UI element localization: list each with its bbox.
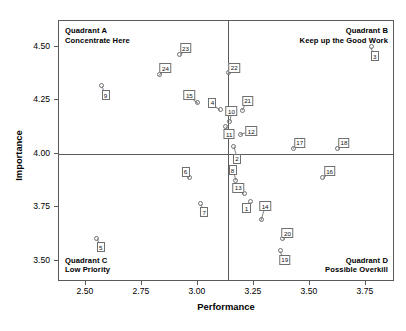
quadrant-d-title: Quadrant D	[346, 256, 388, 265]
x-tick-label: 3.00	[189, 286, 206, 296]
data-point-label[interactable]: 6	[182, 167, 190, 177]
data-point-label[interactable]: 10	[226, 106, 237, 116]
data-point-label[interactable]: 16	[324, 166, 335, 176]
data-point-marker[interactable]	[94, 236, 99, 241]
data-point-label[interactable]: 9	[102, 90, 110, 100]
quadrant-label-b: Quadrant BKeep up the Good Work	[300, 26, 388, 45]
x-tick-label: 3.50	[301, 286, 318, 296]
data-point-label[interactable]: 24	[160, 63, 171, 73]
data-point-label[interactable]: 20	[282, 228, 293, 238]
quadrant-b-title: Quadrant B	[346, 26, 388, 35]
data-point-marker[interactable]	[238, 132, 243, 137]
x-tick-mark	[141, 281, 142, 285]
data-point-label[interactable]: 2	[233, 154, 241, 164]
horizontal-reference-line	[59, 154, 393, 155]
data-point-marker[interactable]	[369, 44, 374, 49]
data-point-label[interactable]: 23	[180, 43, 191, 53]
x-tick-mark	[253, 281, 254, 285]
plot-area: Quadrant AConcentrate Here Quadrant BKee…	[59, 21, 393, 280]
data-point-label[interactable]: 17	[294, 138, 305, 148]
quadrant-a-title: Quadrant A	[65, 26, 107, 35]
data-point-label[interactable]: 1	[242, 203, 250, 213]
x-tick-label: 3.25	[245, 286, 262, 296]
data-point-marker[interactable]	[218, 107, 223, 112]
quadrant-b-subtitle: Keep up the Good Work	[300, 36, 388, 45]
y-axis-title: Importance	[13, 86, 24, 226]
x-tick-mark	[365, 281, 366, 285]
data-point-label[interactable]: 5	[97, 242, 105, 252]
data-point-label[interactable]: 8	[229, 165, 237, 175]
y-tick-label: 3.50	[33, 255, 50, 265]
x-tick-label: 2.75	[133, 286, 150, 296]
quadrant-c-subtitle: Low Priority	[65, 265, 110, 274]
quadrant-d-subtitle: Possible Overkill	[325, 265, 388, 274]
x-tick-label: 2.50	[77, 286, 94, 296]
data-point-marker[interactable]	[278, 248, 283, 253]
quadrant-label-c: Quadrant CLow Priority	[65, 256, 110, 275]
plot-frame: Quadrant AConcentrate Here Quadrant BKee…	[58, 20, 394, 281]
data-point-label[interactable]: 15	[184, 90, 195, 100]
vertical-reference-line	[228, 21, 229, 280]
quadrant-c-title: Quadrant C	[65, 256, 107, 265]
x-tick-mark	[309, 281, 310, 285]
quadrant-label-d: Quadrant DPossible Overkill	[325, 256, 388, 275]
data-point-marker[interactable]	[99, 83, 104, 88]
data-point-label[interactable]: 3	[371, 51, 379, 61]
data-point-label[interactable]: 14	[259, 201, 270, 211]
x-tick-mark	[85, 281, 86, 285]
data-point-label[interactable]: 22	[228, 63, 239, 73]
quadrant-a-subtitle: Concentrate Here	[65, 36, 130, 45]
x-axis-title: Performance	[58, 301, 394, 312]
data-point-label[interactable]: 18	[338, 138, 349, 148]
y-tick-label: 4.50	[33, 41, 50, 51]
data-point-label[interactable]: 4	[208, 98, 216, 108]
y-tick-label: 3.75	[33, 201, 50, 211]
data-point-marker[interactable]	[227, 119, 232, 124]
data-point-label[interactable]: 12	[245, 126, 256, 136]
y-tick-label: 4.00	[33, 148, 50, 158]
data-point-marker[interactable]	[195, 100, 200, 105]
x-tick-mark	[197, 281, 198, 285]
data-point-label[interactable]: 21	[242, 96, 253, 106]
y-tick-label: 4.25	[33, 94, 50, 104]
importance-performance-chart: Importance 3.503.754.004.254.50 2.502.75…	[0, 0, 406, 331]
data-point-label[interactable]: 11	[224, 129, 235, 139]
data-point-label[interactable]: 19	[279, 255, 290, 265]
data-point-marker[interactable]	[231, 144, 236, 149]
data-point-marker[interactable]	[240, 108, 245, 113]
quadrant-label-a: Quadrant AConcentrate Here	[65, 26, 130, 45]
x-tick-label: 3.75	[357, 286, 374, 296]
data-point-label[interactable]: 7	[200, 207, 208, 217]
data-point-marker[interactable]	[259, 217, 264, 222]
data-point-label[interactable]: 13	[232, 183, 243, 193]
